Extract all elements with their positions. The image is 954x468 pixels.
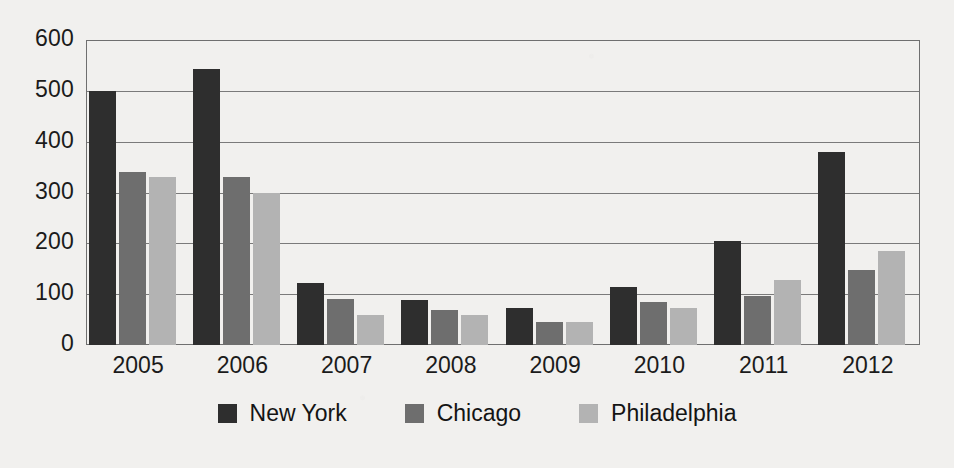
- bar-philadelphia-2009[interactable]: [566, 322, 593, 345]
- y-tick-label: 500: [0, 76, 74, 103]
- x-tick-label-2012: 2012: [816, 352, 920, 379]
- bar-group-2007: [295, 40, 399, 345]
- x-tick-label-2008: 2008: [399, 352, 503, 379]
- legend-item-philadelphia[interactable]: Philadelphia: [579, 400, 736, 427]
- bar-group-2005: [86, 40, 190, 345]
- bar-philadelphia-2012[interactable]: [878, 251, 905, 345]
- bar-philadelphia-2011[interactable]: [774, 280, 801, 345]
- bar-new-york-2008[interactable]: [401, 300, 428, 345]
- bar-chicago-2009[interactable]: [536, 322, 563, 345]
- bar-chicago-2008[interactable]: [431, 310, 458, 345]
- bar-group-2010: [607, 40, 711, 345]
- bar-new-york-2009[interactable]: [506, 308, 533, 345]
- bar-chicago-2006[interactable]: [223, 177, 250, 345]
- bar-chicago-2012[interactable]: [848, 270, 875, 345]
- x-tick-label-2005: 2005: [86, 352, 190, 379]
- legend-item-new-york[interactable]: New York: [218, 400, 347, 427]
- x-tick-label-2010: 2010: [607, 352, 711, 379]
- x-axis: 20052006200720082009201020112012: [86, 352, 920, 386]
- bar-chicago-2007[interactable]: [327, 299, 354, 345]
- bar-chicago-2010[interactable]: [640, 302, 667, 345]
- bar-new-york-2012[interactable]: [818, 152, 845, 345]
- bar-group-2011: [712, 40, 816, 345]
- legend-label: Philadelphia: [611, 400, 736, 427]
- bar-chicago-2005[interactable]: [119, 172, 146, 345]
- bar-philadelphia-2010[interactable]: [670, 308, 697, 345]
- y-tick-label: 100: [0, 279, 74, 306]
- chart-legend: New YorkChicagoPhiladelphia: [0, 400, 954, 427]
- bar-philadelphia-2005[interactable]: [149, 177, 176, 345]
- bar-philadelphia-2008[interactable]: [461, 315, 488, 346]
- legend-swatch-icon: [579, 404, 598, 423]
- bar-new-york-2006[interactable]: [193, 69, 220, 345]
- y-tick-label: 0: [0, 330, 74, 357]
- bar-group-2012: [816, 40, 920, 345]
- bar-new-york-2010[interactable]: [610, 287, 637, 345]
- legend-swatch-icon: [405, 404, 424, 423]
- bar-group-2009: [503, 40, 607, 345]
- x-tick-label-2009: 2009: [503, 352, 607, 379]
- bar-group-2008: [399, 40, 503, 345]
- x-tick-label-2007: 2007: [295, 352, 399, 379]
- x-tick-label-2006: 2006: [190, 352, 294, 379]
- y-tick-label: 200: [0, 228, 74, 255]
- bar-new-york-2011[interactable]: [714, 241, 741, 345]
- y-tick-label: 300: [0, 178, 74, 205]
- bar-chicago-2011[interactable]: [744, 296, 771, 345]
- bars-layer: [86, 40, 920, 345]
- legend-label: New York: [250, 400, 347, 427]
- chart-page: 0100200300400500600 20052006200720082009…: [0, 0, 954, 468]
- bar-group-2006: [190, 40, 294, 345]
- legend-swatch-icon: [218, 404, 237, 423]
- bar-new-york-2007[interactable]: [297, 283, 324, 345]
- legend-label: Chicago: [437, 400, 521, 427]
- x-tick-label-2011: 2011: [712, 352, 816, 379]
- y-tick-label: 600: [0, 25, 74, 52]
- y-axis: 0100200300400500600: [0, 0, 86, 345]
- bar-new-york-2005[interactable]: [89, 91, 116, 345]
- legend-item-chicago[interactable]: Chicago: [405, 400, 521, 427]
- bar-philadelphia-2007[interactable]: [357, 315, 384, 346]
- bar-philadelphia-2006[interactable]: [253, 193, 280, 346]
- y-tick-label: 400: [0, 127, 74, 154]
